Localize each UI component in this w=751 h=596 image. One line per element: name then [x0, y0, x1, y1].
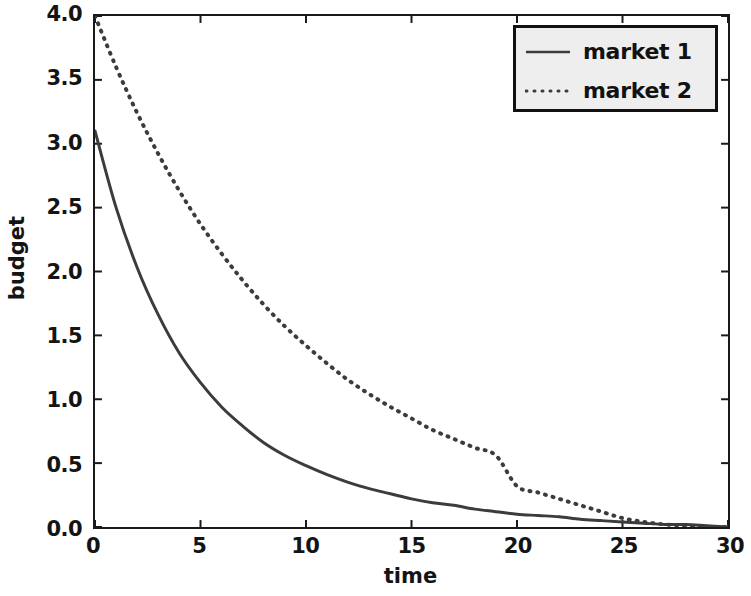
legend-entry-market-1: market 1: [516, 32, 715, 71]
legend-swatch-solid-icon: [525, 46, 571, 58]
y-axis-title: budget: [5, 188, 29, 328]
y-tick-label: 0.5: [6, 453, 82, 477]
y-axis-title-text: budget: [5, 216, 29, 300]
x-axis-title: time: [0, 564, 751, 588]
x-tick-label: 30: [700, 534, 751, 558]
figure-canvas: 0.00.51.01.52.02.53.03.54.0 051015202530…: [0, 0, 751, 596]
x-axis-title-text: time: [314, 564, 437, 588]
x-tick-label: 15: [382, 534, 442, 558]
y-tick-label: 3.0: [6, 131, 82, 155]
y-tick-label: 4.0: [6, 2, 82, 26]
legend-label-market-2: market 2: [583, 78, 692, 103]
y-tick-label: 0.0: [6, 517, 82, 541]
x-tick-label: 25: [594, 534, 654, 558]
line-market-1: [95, 131, 728, 527]
legend-swatch-dotted-icon: [525, 85, 571, 97]
x-tick-label: 20: [488, 534, 548, 558]
x-tick-label: 0: [63, 534, 123, 558]
y-tick-label: 1.0: [6, 388, 82, 412]
x-tick-label: 5: [169, 534, 229, 558]
x-tick-label: 10: [275, 534, 335, 558]
legend-entry-market-2: market 2: [516, 71, 715, 110]
legend-label-market-1: market 1: [583, 39, 692, 64]
y-tick-label: 3.5: [6, 66, 82, 90]
legend-box: market 1 market 2: [513, 25, 718, 112]
